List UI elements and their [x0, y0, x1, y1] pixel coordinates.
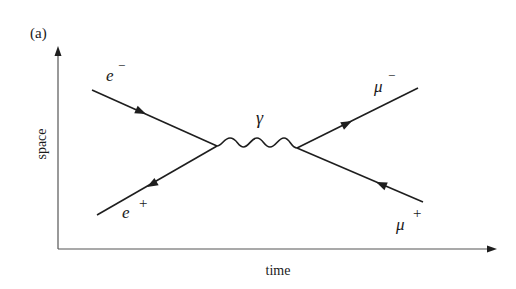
svg-text:+: +	[139, 195, 147, 211]
antimuon-label: μ +	[395, 205, 421, 234]
svg-text:μ: μ	[373, 77, 383, 96]
svg-text:e: e	[106, 66, 114, 85]
photon-label: γ	[256, 108, 264, 128]
svg-text:+: +	[413, 205, 421, 221]
svg-text:μ: μ	[395, 215, 405, 234]
svg-text:−: −	[388, 68, 395, 83]
positron-line	[97, 146, 217, 215]
svg-text:−: −	[118, 58, 125, 73]
space-axis-label: space	[34, 128, 49, 159]
electron-label: e −	[106, 58, 125, 85]
photon-line	[217, 138, 297, 148]
electron-arrow-icon	[134, 106, 147, 118]
antimuon-line	[297, 148, 423, 202]
muon-label: μ −	[373, 68, 395, 96]
muon-line	[297, 88, 418, 148]
time-axis-arrowhead-icon	[487, 246, 497, 253]
svg-text:e: e	[122, 203, 130, 222]
axes	[55, 46, 498, 253]
panel-label: (a)	[30, 25, 47, 42]
space-axis-arrowhead-icon	[55, 46, 62, 56]
muon-arrow-icon	[340, 117, 354, 129]
time-axis-label: time	[266, 263, 291, 278]
electron-line	[92, 90, 217, 146]
feynman-diagram: (a) space time e − e + γ μ	[0, 0, 516, 289]
positron-arrow-icon	[145, 178, 159, 191]
antimuon-arrow-icon	[374, 178, 387, 190]
